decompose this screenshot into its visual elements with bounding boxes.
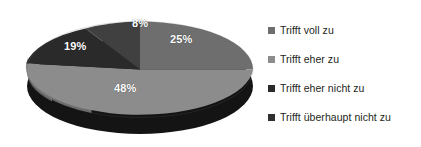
square-swatch-icon xyxy=(268,85,275,92)
pie-chart-figure: 25% 48% 19% 8% Trifft voll zu Trifft ehe… xyxy=(0,0,421,147)
legend-item-trifft-ueberhaupt-nicht-zu[interactable]: Trifft überhaupt nicht zu xyxy=(268,110,391,124)
chart-legend: Trifft voll zu Trifft eher zu Trifft ehe… xyxy=(268,0,421,147)
legend-item-label: Trifft eher nicht zu xyxy=(280,82,364,95)
legend-item-trifft-eher-zu[interactable]: Trifft eher zu xyxy=(268,52,339,66)
legend-item-label: Trifft voll zu xyxy=(280,24,334,37)
pie-slice-trifft-voll-zu xyxy=(140,22,253,70)
legend-item-label: Trifft eher zu xyxy=(280,53,339,66)
pie-chart-svg xyxy=(0,0,262,147)
square-swatch-icon xyxy=(268,114,275,121)
square-swatch-icon xyxy=(268,56,275,63)
legend-item-trifft-voll-zu[interactable]: Trifft voll zu xyxy=(268,23,334,37)
square-swatch-icon xyxy=(268,27,275,34)
legend-item-trifft-eher-nicht-zu[interactable]: Trifft eher nicht zu xyxy=(268,81,364,95)
pie-chart-plot-area: 25% 48% 19% 8% xyxy=(0,0,262,147)
legend-item-label: Trifft überhaupt nicht zu xyxy=(280,111,391,124)
